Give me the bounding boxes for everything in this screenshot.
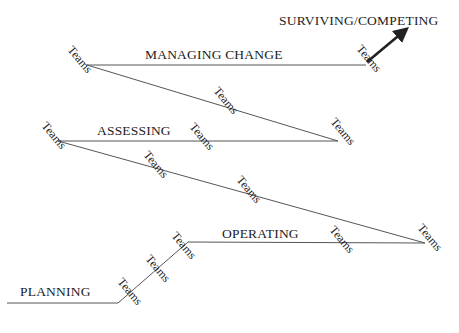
team-label: Teams (327, 223, 358, 256)
team-labels: Teams Teams Teams Teams Teams Teams Team… (39, 42, 446, 308)
team-label: Teams (143, 252, 174, 285)
team-label: Teams (39, 119, 70, 152)
team-label: Teams (354, 42, 385, 75)
stage-label-managing-change: MANAGING CHANGE (145, 47, 283, 62)
team-label: Teams (141, 148, 172, 181)
stage-label-assessing: ASSESSING (97, 123, 171, 138)
team-label: Teams (169, 229, 200, 262)
stage-label-operating: OPERATING (222, 226, 299, 241)
stage-label-planning: PLANNING (20, 284, 91, 299)
team-label: Teams (65, 43, 96, 76)
team-stages-diagram: PLANNING OPERATING ASSESSING MANAGING CH… (0, 0, 459, 333)
progression-path (7, 65, 425, 303)
team-label: Teams (415, 221, 446, 254)
team-label: Teams (328, 115, 359, 148)
team-label: Teams (115, 275, 146, 308)
stage-label-surviving-competing: SURVIVING/COMPETING (279, 13, 439, 28)
team-label: Teams (211, 84, 242, 117)
team-label: Teams (234, 173, 265, 206)
operating-line (188, 242, 425, 243)
team-label: Teams (187, 120, 218, 153)
